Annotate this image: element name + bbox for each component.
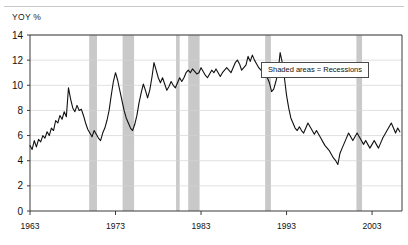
y-tick-label-6: 6 (17, 130, 23, 141)
y-tick-label-2: 2 (17, 180, 23, 191)
x-tick-label-1983: 1983 (192, 221, 211, 231)
plot-area: 02468101214 19631973198319932003 (0, 0, 408, 245)
x-tick-label-1993: 1993 (277, 221, 296, 231)
y-tick-label-10: 10 (12, 80, 24, 91)
y-tick-labels: 02468101214 (12, 30, 24, 217)
chart-container: YOY % 02468101214 19631973198319932003 S… (0, 0, 408, 245)
x-axis (30, 211, 402, 215)
y-tick-label-8: 8 (17, 105, 23, 116)
recession-1981-1982 (188, 35, 199, 211)
y-tick-label-14: 14 (12, 30, 24, 41)
x-tick-label-2003: 2003 (363, 221, 382, 231)
x-tick-label-1973: 1973 (106, 221, 125, 231)
recession-1969-1970 (89, 35, 97, 211)
y-tick-label-0: 0 (17, 206, 23, 217)
legend-recessions: Shaded areas = Recessions (261, 62, 369, 78)
x-tick-labels: 19631973198319932003 (21, 221, 382, 231)
y-tick-label-12: 12 (12, 55, 24, 66)
recession-1980 (176, 35, 180, 211)
y-tick-label-4: 4 (17, 155, 23, 166)
x-tick-label-1963: 1963 (21, 221, 40, 231)
horizontal-gridlines (30, 35, 402, 186)
